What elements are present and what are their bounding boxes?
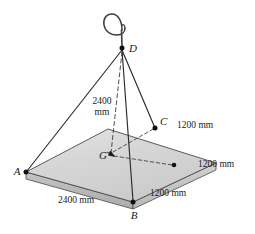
- point-label-B: B: [131, 209, 138, 221]
- point-marker-D: [120, 46, 125, 51]
- point-marker-A: [24, 170, 29, 175]
- point-marker-B: [131, 200, 136, 205]
- point-label-D: D: [128, 42, 137, 54]
- dimension-cable-height-line1: 2400: [93, 96, 112, 106]
- dimension-upper-right-edge: 1200 mm: [177, 120, 214, 130]
- point-label-A: A: [13, 165, 21, 177]
- point-label-C: C: [160, 115, 168, 127]
- crane-hook-icon: [104, 14, 125, 47]
- figure-container: D A B C G 2400 mm 1200 mm 1200 mm 1200 m…: [0, 0, 255, 234]
- hook-shank: [122, 30, 123, 47]
- suspended-plate-diagram: D A B C G 2400 mm 1200 mm 1200 mm 1200 m…: [0, 0, 255, 234]
- plate-body: [26, 129, 216, 209]
- dimension-middle-right-edge: 1200 mm: [198, 159, 235, 169]
- dimension-lower-right-edge: 1200 mm: [150, 188, 187, 198]
- point-marker-C: [153, 126, 158, 131]
- plate-top-face: [26, 129, 216, 202]
- point-marker-right-edge-midpoint: [172, 163, 177, 168]
- point-label-G: G: [99, 149, 107, 161]
- dimension-cable-height-line2: mm: [95, 107, 110, 117]
- dimension-bottom-left-edge: 2400 mm: [58, 195, 95, 205]
